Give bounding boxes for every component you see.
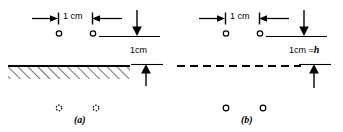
source-point-right	[90, 31, 95, 36]
hatched-surface	[8, 66, 130, 79]
span-label-a: 1 cm	[63, 11, 83, 21]
image-point-right	[93, 105, 99, 111]
image-point-right	[260, 105, 266, 111]
source-point-right	[257, 31, 262, 36]
panel-a-graphics	[0, 0, 172, 132]
span-arrow-left-icon	[92, 13, 122, 25]
span-arrow-right-icon	[199, 13, 226, 25]
panel-b-graphics	[171, 0, 343, 132]
panel-b: 1 cm 1cm =h (b)	[171, 0, 343, 132]
height-label-a: 1cm	[130, 45, 147, 55]
image-point-left	[223, 105, 229, 111]
span-label-b: 1 cm	[230, 11, 250, 21]
height-label-b: 1cm =h	[289, 45, 319, 55]
rise-arrow-up-icon	[309, 64, 319, 88]
height-label-b-text: 1cm =	[289, 45, 314, 55]
rise-arrow-up-icon	[141, 64, 151, 86]
panel-a: 1 cm 1cm (a)	[0, 0, 172, 132]
source-point-left	[56, 31, 61, 36]
span-arrow-left-icon	[259, 13, 289, 25]
drop-arrow-down-icon	[132, 10, 142, 36]
height-label-b-variable: h	[314, 44, 320, 55]
figure-root: 1 cm 1cm (a)	[0, 0, 343, 132]
panel-caption-b: (b)	[241, 114, 253, 125]
source-point-left	[223, 31, 228, 36]
image-point-left	[56, 105, 62, 111]
span-arrow-right-icon	[32, 13, 59, 25]
panel-caption-a: (a)	[74, 114, 86, 125]
drop-arrow-down-icon	[299, 10, 309, 36]
